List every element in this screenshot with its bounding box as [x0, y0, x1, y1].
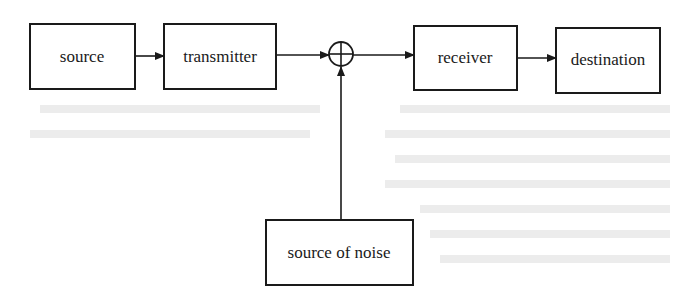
node-label: transmitter: [183, 47, 257, 66]
node-receiver: receiver: [414, 26, 517, 90]
summing-junction: [329, 42, 353, 66]
node-source-of-noise: source of noise: [266, 220, 413, 285]
node-label: receiver: [438, 48, 493, 67]
node-label: destination: [571, 50, 646, 69]
communication-system-diagram: source transmitter receiver destination …: [0, 0, 677, 300]
node-label: source of noise: [288, 243, 391, 262]
node-transmitter: transmitter: [164, 24, 276, 89]
node-source: source: [30, 24, 135, 89]
node-destination: destination: [556, 28, 660, 93]
node-label: source: [60, 47, 104, 66]
